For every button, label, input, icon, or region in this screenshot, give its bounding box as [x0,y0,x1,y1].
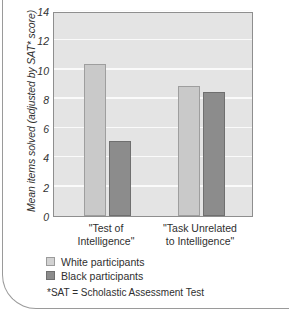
chart-legend: White participantsBlack participants [46,255,144,283]
bar-black-participants-group1 [109,141,131,216]
gridline [54,39,252,40]
legend-item-black-participants: Black participants [46,269,144,282]
bar-chart-figure: Mean items solved (adjusted by SAT* scor… [0,0,289,318]
footnote-text: *SAT = Scholastic Assessment Test [47,287,204,298]
x-axis-category-label-1: "Test ofIntelligence" [60,222,152,248]
y-axis-tick-label: 10 [21,65,49,77]
legend-item-white-participants: White participants [46,255,144,268]
category-label-line: to Intelligence" [142,235,258,248]
legend-swatch-icon [46,271,55,280]
category-label-line: Intelligence" [60,235,152,248]
plot-area [53,12,253,217]
legend-item-label: White participants [61,256,144,268]
y-axis-tick-label: 14 [21,6,49,18]
bar-white-participants-group2 [178,86,200,216]
category-label-line: "Test of [60,222,152,235]
y-axis-tick-label: 0 [21,211,49,223]
bar-black-participants-group2 [203,92,225,216]
gridline [54,10,252,11]
y-axis-tick-label: 4 [21,152,49,164]
y-axis-tick-label: 2 [21,182,49,194]
y-axis-tick-label: 12 [21,35,49,47]
category-label-line: "Task Unrelated [142,222,258,235]
y-axis-tick-label: 8 [21,94,49,106]
x-axis-category-label-2: "Task Unrelatedto Intelligence" [142,222,258,248]
y-axis-tick-label: 6 [21,123,49,135]
legend-swatch-icon [46,257,55,266]
legend-item-label: Black participants [61,270,143,282]
bar-white-participants-group1 [84,64,106,216]
